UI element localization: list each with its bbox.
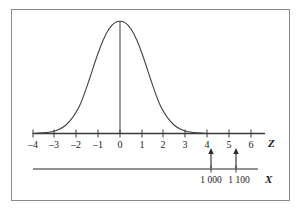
normal-curve-plot [0,0,301,210]
z-tick-label-6: 6 [249,140,254,150]
z-tick-label--4: –4 [28,140,38,150]
z-tick-label-3: 3 [183,140,188,150]
z-tick-label--3: –3 [49,140,59,150]
x-tick-label-1000: 1 000 [200,176,221,186]
arrow-up-to-z-5 [208,148,213,168]
z-axis-label: Z [268,138,275,149]
x-tick-label-1100: 1 100 [228,176,249,186]
arrow-up-to-z-6 [233,148,238,168]
x-axis-label: X [265,174,272,185]
figure-container: –4 –3 –2 –1 0 1 2 3 4 5 6 Z 1 000 1 100 … [0,0,301,210]
z-tick-label--2: –2 [71,140,81,150]
z-tick-label-4: 4 [205,140,210,150]
annotation-arrows [208,148,238,168]
z-tick-label-5: 5 [227,140,232,150]
z-tick-label-1: 1 [140,140,145,150]
z-tick-label-0: 0 [118,140,123,150]
z-tick-label--1: –1 [93,140,103,150]
z-tick-label-2: 2 [161,140,166,150]
